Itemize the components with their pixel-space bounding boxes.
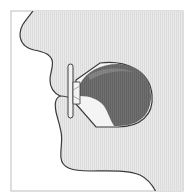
mouthpiece-bar: [68, 64, 73, 118]
mouthpiece-neck: [73, 82, 80, 104]
face-profile-diagram: [0, 0, 186, 196]
